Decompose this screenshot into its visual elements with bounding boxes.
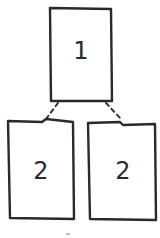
- edge-top-to-left: [46, 103, 58, 119]
- node-right: 2: [88, 122, 156, 220]
- edge-top-to-right: [106, 103, 121, 119]
- node-left: 2: [8, 119, 74, 219]
- smudge-mark: [66, 233, 70, 235]
- tree-diagram: 1 2 2: [0, 0, 160, 238]
- node-right-label: 2: [115, 157, 130, 185]
- node-left-label: 2: [33, 157, 48, 185]
- node-top: 1: [50, 8, 112, 101]
- node-top-label: 1: [73, 37, 88, 65]
